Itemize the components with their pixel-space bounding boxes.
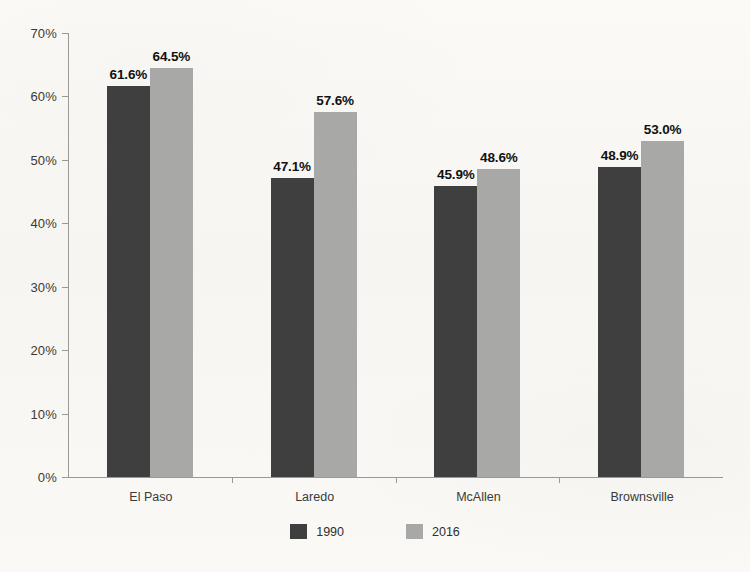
bar-value-label: 48.9%: [601, 148, 639, 163]
chart-legend: 19902016: [0, 524, 750, 539]
y-axis-tick: [62, 350, 68, 351]
y-axis-label: 30%: [30, 279, 57, 294]
bar-value-label: 48.6%: [480, 150, 518, 165]
x-axis-category-label: Brownsville: [611, 490, 674, 504]
y-axis-tick: [62, 33, 68, 34]
x-axis-category-label: McAllen: [456, 490, 500, 504]
y-axis-line: [68, 33, 69, 477]
x-axis-tick: [232, 477, 233, 483]
plot-area: 0%10%20%30%40%50%60%70%61.6%64.5%El Paso…: [68, 33, 723, 477]
bar-laredo-1990[interactable]: 47.1%: [271, 178, 314, 477]
y-axis-label: 0%: [38, 470, 57, 485]
y-axis-label: 20%: [30, 343, 57, 358]
bar-el-paso-2016[interactable]: 64.5%: [150, 68, 193, 477]
y-axis-tick: [62, 96, 68, 97]
bar-value-label: 61.6%: [109, 67, 147, 82]
chart-page: 0%10%20%30%40%50%60%70%61.6%64.5%El Paso…: [0, 0, 750, 572]
bar-value-label: 64.5%: [152, 49, 190, 64]
y-axis-label: 70%: [30, 26, 57, 41]
y-axis-label: 10%: [30, 406, 57, 421]
legend-item-2016[interactable]: 2016: [406, 524, 460, 539]
bar-mcallen-2016[interactable]: 48.6%: [477, 169, 520, 477]
bar-group: 45.9%48.6%McAllen: [434, 33, 520, 477]
legend-label: 1990: [316, 525, 344, 539]
bar-group: 48.9%53.0%Brownsville: [598, 33, 684, 477]
x-axis-tick: [396, 477, 397, 483]
bar-group: 47.1%57.6%Laredo: [271, 33, 357, 477]
y-axis-tick: [62, 160, 68, 161]
bar-mcallen-1990[interactable]: 45.9%: [434, 186, 477, 477]
legend-swatch-icon: [290, 524, 307, 539]
y-axis-label: 40%: [30, 216, 57, 231]
legend-item-1990[interactable]: 1990: [290, 524, 344, 539]
bar-laredo-2016[interactable]: 57.6%: [314, 112, 357, 477]
bar-el-paso-1990[interactable]: 61.6%: [107, 86, 150, 477]
y-axis-tick: [62, 287, 68, 288]
bar-brownsville-2016[interactable]: 53.0%: [641, 141, 684, 477]
y-axis-tick: [62, 223, 68, 224]
legend-swatch-icon: [406, 524, 423, 539]
x-axis-category-label: El Paso: [129, 490, 172, 504]
bar-value-label: 45.9%: [437, 167, 475, 182]
y-axis-tick: [62, 477, 68, 478]
bar-value-label: 57.6%: [316, 93, 354, 108]
bar-brownsville-1990[interactable]: 48.9%: [598, 167, 641, 477]
bar-group: 61.6%64.5%El Paso: [107, 33, 193, 477]
y-axis-label: 60%: [30, 89, 57, 104]
bar-value-label: 47.1%: [273, 159, 311, 174]
bar-value-label: 53.0%: [644, 122, 682, 137]
y-axis-tick: [62, 414, 68, 415]
y-axis-label: 50%: [30, 152, 57, 167]
x-axis-category-label: Laredo: [295, 490, 334, 504]
x-axis-tick: [559, 477, 560, 483]
legend-label: 2016: [432, 525, 460, 539]
